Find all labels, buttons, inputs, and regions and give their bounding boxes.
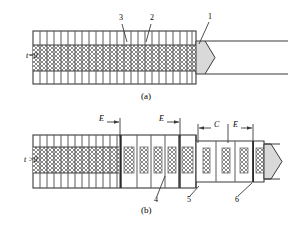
panel-b-band-continuous	[33, 147, 119, 173]
panel-b-caption: (b)	[141, 205, 152, 215]
diagram-svg	[0, 0, 295, 230]
panel-a-caption: (a)	[141, 91, 151, 101]
dimension-E3-label: E	[233, 120, 238, 129]
panel-b-dark-band-1	[120, 135, 122, 188]
figure-canvas: t=0 t >0 3 2 1 4 5 6 E E C E (a) (b)	[0, 0, 295, 230]
leader-6	[238, 183, 252, 196]
dimension-C-label: C	[214, 120, 219, 129]
panel-b-fragment-blocks	[124, 147, 193, 173]
dimension-E2-label: E	[159, 114, 164, 123]
callout-4-label: 4	[154, 195, 158, 204]
callout-2-label: 2	[150, 13, 154, 22]
panel-b-time-label: t >0	[24, 155, 38, 164]
panel-a-time-label: t=0	[26, 51, 38, 60]
dimension-E1-label: E	[99, 114, 104, 123]
panel-b-narrow-dark-band	[252, 141, 254, 182]
panel-a-hatched-band	[33, 45, 196, 71]
panel-a-group	[33, 22, 288, 84]
callout-3-label: 3	[119, 13, 123, 22]
panel-b-group	[33, 118, 282, 196]
callout-1-label: 1	[208, 12, 212, 21]
callout-5-label: 5	[187, 195, 191, 204]
callout-6-label: 6	[235, 195, 239, 204]
panel-a-wedge	[196, 41, 215, 74]
panel-b-wedge	[264, 144, 282, 179]
